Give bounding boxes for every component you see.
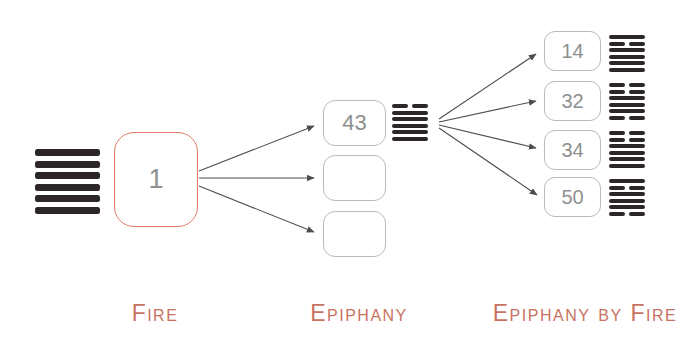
hexagram-number-1: 1 (148, 164, 163, 195)
hexagram-box-14: 14 (544, 31, 601, 71)
arrow-mid-to-right-3 (439, 125, 536, 148)
hexagram-50-glyph (609, 179, 645, 216)
hexagram-number-43: 43 (342, 110, 366, 136)
arrow-source-to-mid-1 (199, 126, 314, 171)
hexagram-43-glyph (392, 104, 428, 141)
empty-box-1 (323, 155, 386, 201)
hexagram-34-glyph (609, 131, 645, 168)
hexagram-number-50: 50 (561, 186, 583, 209)
hexagram-box-32: 32 (544, 81, 601, 121)
arrow-source-to-mid-3 (199, 186, 314, 232)
arrow-mid-to-right-4 (439, 128, 537, 195)
empty-box-2 (323, 211, 386, 257)
hexagram-1-glyph (35, 149, 100, 214)
hexagram-number-14: 14 (561, 40, 583, 63)
hexagram-box-50: 50 (544, 177, 601, 217)
hexagram-box-43: 43 (323, 100, 386, 146)
hexagram-number-32: 32 (561, 90, 583, 113)
hexagram-transformation-diagram: 1 43 14 32 34 50 Fire Epiphany Epiphany … (0, 0, 687, 347)
hexagram-14-glyph (609, 35, 645, 72)
column-label-fire: Fire (105, 300, 205, 327)
arrow-mid-to-right-1 (439, 54, 536, 119)
hexagram-number-34: 34 (561, 139, 583, 162)
column-label-epiphany-by-fire: Epiphany by Fire (485, 300, 685, 327)
hexagram-32-glyph (609, 83, 645, 120)
hexagram-box-34: 34 (544, 130, 601, 170)
arrow-mid-to-right-2 (439, 101, 536, 122)
column-label-epiphany: Epiphany (304, 300, 414, 327)
hexagram-box-1: 1 (114, 132, 198, 227)
